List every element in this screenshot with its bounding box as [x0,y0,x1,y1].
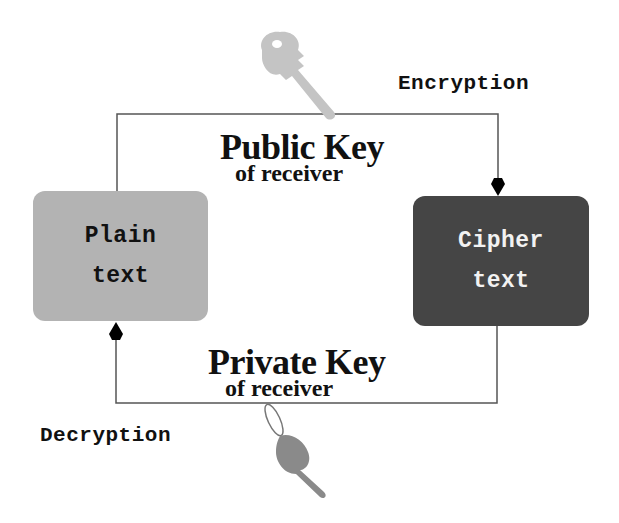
plain-text-node: Plain text [33,191,208,321]
public-key-subtitle: of receiver [235,160,343,187]
decryption-label: Decryption [40,424,171,447]
cipher-text-node: Cipher text [413,196,589,326]
public-key-icon [261,32,335,120]
private-key-icon [261,402,325,498]
plain-text-label-line1: Plain [85,216,157,256]
cipher-text-label-line1: Cipher [458,221,544,261]
plain-text-label-line2: text [92,256,149,296]
decryption-arrowhead-icon [109,322,123,340]
encryption-label: Encryption [398,72,529,95]
private-key-subtitle: of receiver [225,375,333,402]
encryption-arrowhead-icon [491,178,505,196]
cipher-text-label-line2: text [472,261,529,301]
